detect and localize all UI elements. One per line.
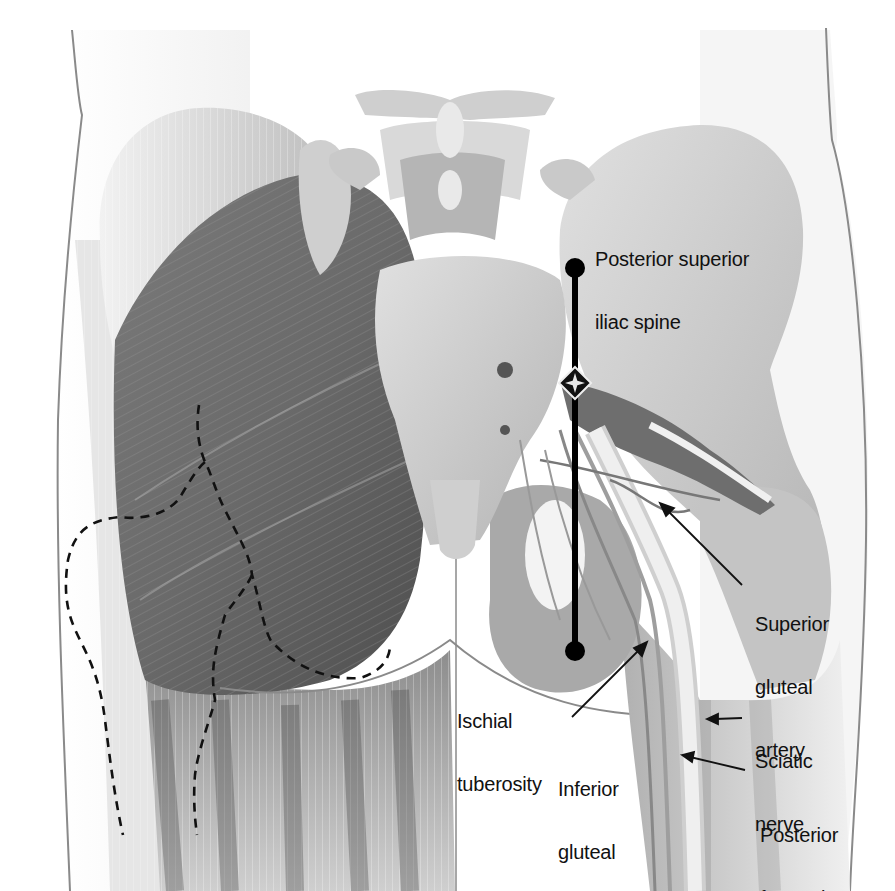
anatomy-figure: Posterior superior iliac spine Superior … <box>0 0 895 891</box>
label-line: Sciatic <box>755 751 813 772</box>
label-line: Superior <box>755 614 829 635</box>
label-line: Inferior <box>558 779 619 800</box>
label-line: Posterior <box>760 825 851 846</box>
label-line: gluteal <box>755 677 829 698</box>
label-line: Ischial <box>457 711 542 732</box>
label-line: tuberosity <box>457 774 542 795</box>
coccyx <box>430 480 480 559</box>
psis-marker-dot <box>565 258 585 278</box>
label-ischial-tuberosity: Ischial tuberosity <box>457 669 542 816</box>
label-posterior-femoral-cutaneous-nerve: Posterior femoral cutaneous nerve <box>760 783 851 891</box>
label-inferior-gluteal-artery: Inferior gluteal artery <box>558 737 619 891</box>
label-posterior-superior-iliac-spine: Posterior superior iliac spine <box>595 207 749 354</box>
label-line: iliac spine <box>595 312 749 333</box>
label-line: Posterior superior <box>595 249 749 270</box>
label-line: gluteal <box>558 842 619 863</box>
ischial-marker-dot <box>565 641 585 661</box>
